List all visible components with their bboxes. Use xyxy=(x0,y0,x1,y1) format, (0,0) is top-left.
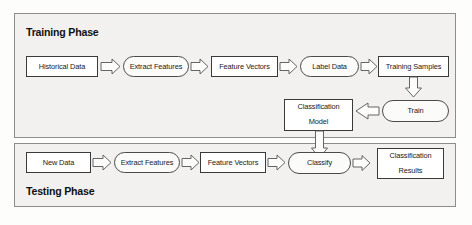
node-extract-features-test[interactable]: Extract Features xyxy=(115,153,180,173)
feature-vectors-train-label: Feature Vectors xyxy=(219,62,270,71)
train-label: Train xyxy=(407,106,423,115)
node-training-samples[interactable]: Training Samples xyxy=(379,57,449,77)
node-label-data[interactable]: Label Data xyxy=(301,57,359,77)
node-extract-features-train[interactable]: Extract Features xyxy=(124,57,189,77)
node-new-data[interactable]: New Data xyxy=(27,153,91,173)
node-classification-model[interactable]: Classification Model xyxy=(285,100,353,131)
extract-features-train-label: Extract Features xyxy=(130,62,183,71)
training-phase-label: Training Phase xyxy=(26,26,99,38)
node-feature-vectors-train[interactable]: Feature Vectors xyxy=(212,57,278,77)
classification-model-label-line1: Classification xyxy=(297,102,339,111)
node-classify[interactable]: Classify xyxy=(289,153,351,174)
extract-features-test-label: Extract Features xyxy=(121,158,174,167)
node-feature-vectors-test[interactable]: Feature Vectors xyxy=(201,153,266,173)
label-data-label: Label Data xyxy=(312,62,348,71)
node-classification-results[interactable]: Classification Results xyxy=(378,149,444,179)
testing-phase-label: Testing Phase xyxy=(26,185,95,197)
historical-data-label: Historical Data xyxy=(39,62,87,71)
diagram-root: on of the proposed ensemble model the cl… xyxy=(0,0,472,225)
node-historical-data[interactable]: Historical Data xyxy=(27,57,98,77)
node-train[interactable]: Train xyxy=(383,101,449,122)
classification-results-label-line2: Results xyxy=(399,166,423,175)
training-samples-label: Training Samples xyxy=(386,62,442,71)
feature-vectors-test-label: Feature Vectors xyxy=(208,158,259,167)
new-data-label: New Data xyxy=(43,158,76,167)
flowchart-canvas: on of the proposed ensemble model the cl… xyxy=(0,0,472,225)
classify-label: Classify xyxy=(307,158,332,167)
classification-results-label-line1: Classification xyxy=(389,151,431,160)
classification-model-label-line2: Model xyxy=(309,117,329,126)
